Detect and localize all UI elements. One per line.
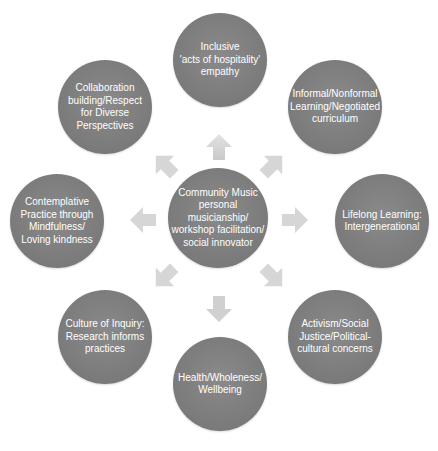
node-label: Activism/Social Justice/Political- cultu…	[297, 318, 373, 356]
community-music-diagram: Community Music personal musicianship/ w…	[0, 0, 438, 451]
node-health: Health/Wholeness/ Wellbeing	[173, 337, 267, 431]
node-label: Lifelong Learning: Intergenerational	[342, 209, 422, 234]
arrow-up-left-icon	[150, 150, 180, 180]
arrow-down-right-icon	[258, 262, 288, 292]
arrow-down-icon	[204, 294, 234, 324]
arrow-up-icon	[204, 132, 234, 162]
arrow-up-right-icon	[258, 150, 288, 180]
node-culture-of-inquiry: Culture of Inquiry: Research informs pra…	[58, 290, 152, 384]
node-lifelong-learning: Lifelong Learning: Intergenerational	[335, 174, 429, 268]
node-collaboration: Collaboration building/Respect for Diver…	[58, 60, 152, 154]
node-label: Contemplative Practice through Mindfulne…	[21, 196, 94, 246]
node-contemplative-practice: Contemplative Practice through Mindfulne…	[10, 174, 104, 268]
arrow-right-icon	[280, 205, 310, 235]
arrow-left-icon	[128, 205, 158, 235]
node-label: Inclusive 'acts of hospitality' empathy	[180, 41, 261, 79]
node-inclusive: Inclusive 'acts of hospitality' empathy	[173, 13, 267, 107]
center-node-label: Community Music personal musicianship/ w…	[168, 187, 268, 250]
node-label: Informal/Nonformal Learning/Negotiated c…	[290, 88, 380, 126]
node-label: Collaboration building/Respect for Diver…	[68, 82, 142, 132]
arrow-down-left-icon	[150, 262, 180, 292]
node-label: Health/Wholeness/ Wellbeing	[178, 372, 262, 397]
node-informal-learning: Informal/Nonformal Learning/Negotiated c…	[288, 60, 382, 154]
center-node-community-music: Community Music personal musicianship/ w…	[168, 168, 268, 268]
node-label: Culture of Inquiry: Research informs pra…	[66, 318, 145, 356]
node-activism: Activism/Social Justice/Political- cultu…	[288, 290, 382, 384]
